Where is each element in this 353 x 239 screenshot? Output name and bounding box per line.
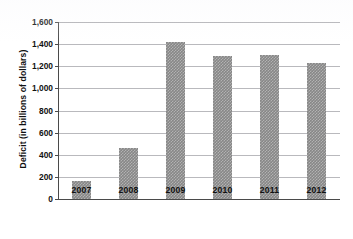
y-axis-title: Deficit (in billions of dollars) xyxy=(18,24,28,194)
gridline xyxy=(58,177,340,178)
gridline xyxy=(58,44,340,45)
gridline xyxy=(58,111,340,112)
y-axis-tick-label: 1,200 xyxy=(32,61,53,71)
y-axis-tick-label: 800 xyxy=(39,106,53,116)
bar-2012 xyxy=(307,63,326,199)
x-axis-tick-label-2012: 2012 xyxy=(287,185,347,195)
y-axis-tick-label: 1,400 xyxy=(32,39,53,49)
bar-2010 xyxy=(213,56,232,199)
gridline xyxy=(58,133,340,134)
gridline xyxy=(58,66,340,67)
y-axis-tick-label: 400 xyxy=(39,150,53,160)
plot-area: 02004006008001,0001,2001,4001,600 xyxy=(58,22,340,199)
gridline xyxy=(58,22,340,23)
bar-2009 xyxy=(166,42,185,199)
y-axis-tick-label: 1,600 xyxy=(32,17,53,27)
y-axis-tick-label: 0 xyxy=(48,194,53,204)
gridline xyxy=(58,155,340,156)
y-axis-line xyxy=(58,22,59,200)
bar-2011 xyxy=(260,55,279,199)
x-axis-line xyxy=(58,199,340,200)
bar-chart: Deficit (in billions of dollars) 0200400… xyxy=(0,0,353,239)
y-axis-tick-label: 1,000 xyxy=(32,83,53,93)
gridline xyxy=(58,88,340,89)
chart-title xyxy=(0,0,353,5)
y-axis-tick-label: 600 xyxy=(39,128,53,138)
y-axis-tick-label: 200 xyxy=(39,172,53,182)
